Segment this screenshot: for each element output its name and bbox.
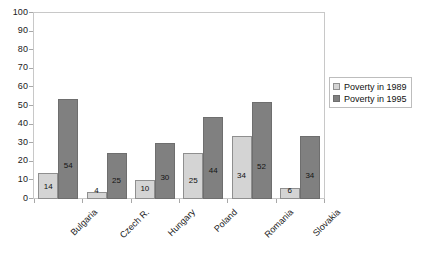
bar-value-label: 34 [301, 172, 319, 180]
x-tick-mark [131, 199, 132, 203]
bar-value-label: 14 [39, 183, 57, 191]
y-tick-mark [29, 49, 33, 50]
x-tick-label-romania: Romania [263, 207, 296, 240]
bar-hungary-series-2: 30 [155, 143, 175, 199]
legend-item-poverty-1995: Poverty in 1995 [333, 93, 407, 104]
y-tick-mark [29, 124, 33, 125]
y-tick-label: 100 [0, 8, 28, 17]
y-tick-mark [29, 68, 33, 69]
y-tick-label: 10 [0, 175, 28, 184]
y-tick-mark [29, 86, 33, 87]
y-tick-label: 60 [0, 82, 28, 91]
y-tick-mark [29, 161, 33, 162]
y-tick-mark [29, 142, 33, 143]
chart-legend: Poverty in 1989 Poverty in 1995 [329, 77, 412, 108]
y-tick-label: 90 [0, 26, 28, 35]
y-tick-label: 50 [0, 101, 28, 110]
y-tick-mark [29, 179, 33, 180]
y-tick-label: 20 [0, 156, 28, 165]
bar-value-label: 54 [59, 162, 77, 170]
bar-bulgaria-series-1: 14 [38, 173, 58, 199]
bar-czech-r-series-2: 25 [107, 153, 127, 200]
bar-value-label: 34 [233, 172, 251, 180]
y-axis: 0102030405060708090100 [0, 12, 28, 199]
y-tick-mark [29, 12, 33, 13]
y-tick-mark [29, 31, 33, 32]
legend-label-series-2: Poverty in 1995 [344, 94, 407, 104]
bar-poland-series-2: 44 [203, 117, 223, 199]
y-tick-mark [29, 198, 33, 199]
legend-label-series-1: Poverty in 1989 [344, 82, 407, 92]
bar-value-label: 25 [184, 177, 202, 185]
legend-item-poverty-1989: Poverty in 1989 [333, 81, 407, 92]
x-tick-label-bulgaria: Bulgaria [69, 207, 99, 237]
bar-value-label: 6 [281, 187, 299, 195]
y-tick-label: 80 [0, 45, 28, 54]
x-tick-label-hungary: Hungary [166, 207, 197, 238]
x-tick-label-poland: Poland [212, 207, 239, 234]
x-tick-label-slovakia: Slovakia [311, 207, 342, 238]
x-tick-label-czech-r: Czech R. [118, 207, 151, 240]
x-tick-mark [179, 199, 180, 203]
legend-swatch-icon-series-2 [333, 95, 340, 102]
bar-czech-r-series-1: 4 [87, 192, 107, 199]
bar-chart: 0102030405060708090100 14544251030254434… [0, 0, 438, 257]
y-tick-label: 40 [0, 119, 28, 128]
legend-swatch-icon-series-1 [333, 83, 340, 90]
bar-value-label: 30 [156, 174, 174, 182]
y-tick-label: 70 [0, 63, 28, 72]
x-tick-mark [276, 199, 277, 203]
bar-hungary-series-1: 10 [135, 180, 155, 199]
bar-romania-series-1: 34 [232, 136, 252, 199]
y-tick-label: 30 [0, 138, 28, 147]
bar-value-label: 25 [108, 177, 126, 185]
bar-bulgaria-series-2: 54 [58, 99, 78, 199]
bar-slovakia-series-1: 6 [280, 188, 300, 199]
y-tick-mark [29, 105, 33, 106]
x-tick-mark [82, 199, 83, 203]
bar-value-label: 10 [136, 185, 154, 193]
bars-layer: 1454425103025443452634 [34, 13, 324, 199]
x-tick-mark [324, 199, 325, 203]
bar-slovakia-series-2: 34 [300, 136, 320, 199]
bar-value-label: 44 [204, 167, 222, 175]
x-tick-mark [227, 199, 228, 203]
bar-value-label: 4 [88, 187, 106, 195]
bar-romania-series-2: 52 [252, 102, 272, 199]
bar-value-label: 52 [253, 163, 271, 171]
x-tick-mark [34, 199, 35, 203]
x-axis: BulgariaCzech R.HungaryPolandRomaniaSlov… [0, 199, 438, 257]
bar-poland-series-1: 25 [183, 153, 203, 200]
